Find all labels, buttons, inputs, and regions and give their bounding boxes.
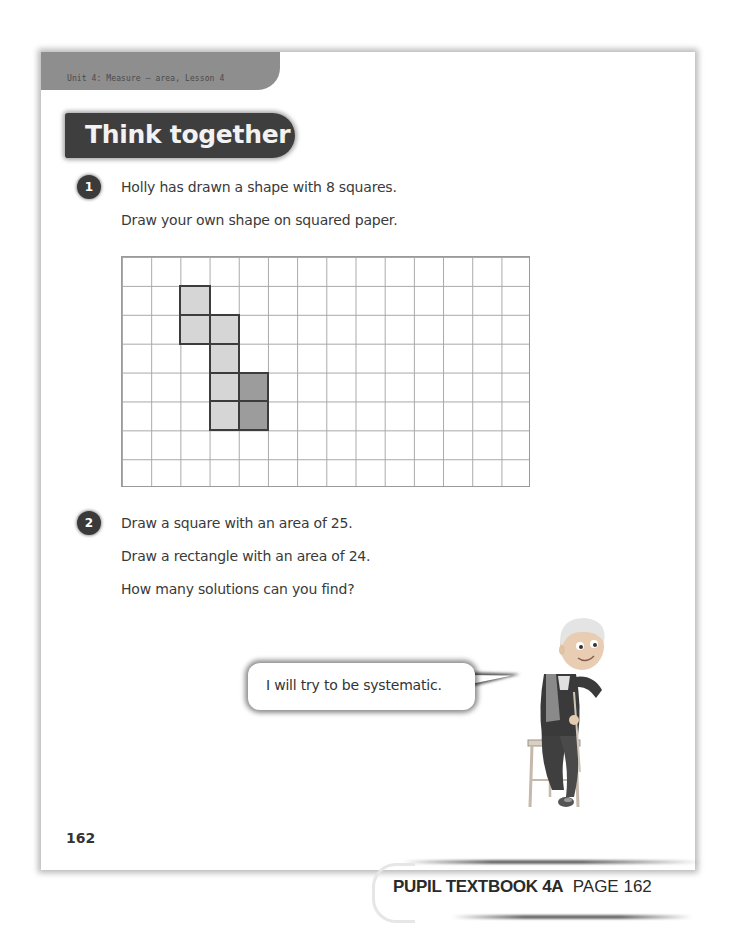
squared-paper-grid [121, 256, 530, 487]
shaded-grid-cell [179, 314, 210, 345]
question-1-number-badge: 1 [77, 175, 101, 199]
question-2-line-3: How many solutions can you find? [121, 581, 354, 597]
question-2-number: 2 [85, 516, 93, 530]
unit-label: Unit 4: Measure – area, Lesson 4 [67, 74, 224, 83]
boy-character-icon [510, 612, 630, 812]
footer-label: PUPIL TEXTBOOK 4A PAGE 162 [393, 877, 652, 897]
footer-divider-bottom [452, 915, 692, 919]
footer-book-label: PUPIL TEXTBOOK 4A [393, 877, 563, 896]
speech-bubble: I will try to be systematic. [248, 663, 475, 710]
footer-page-label: PAGE 162 [573, 877, 652, 896]
footer-page-reference: PUPIL TEXTBOOK 4A PAGE 162 [372, 860, 698, 920]
question-1-line-2: Draw your own shape on squared paper. [121, 212, 397, 228]
page-number: 162 [66, 830, 95, 846]
shaded-grid-cell [209, 314, 240, 345]
shaded-grid-cell [209, 372, 240, 403]
question-2-line-2: Draw a rectangle with an area of 24. [121, 548, 370, 564]
section-title: Think together [85, 120, 290, 149]
textbook-page: Unit 4: Measure – area, Lesson 4 Think t… [41, 52, 695, 870]
question-2-line-1: Draw a square with an area of 25. [121, 515, 353, 531]
question-2-number-badge: 2 [77, 511, 101, 535]
shaded-grid-cell [209, 343, 240, 374]
footer-divider-top [402, 860, 702, 864]
question-1-line-1: Holly has drawn a shape with 8 squares. [121, 179, 397, 195]
shaded-grid-cell [209, 400, 240, 431]
shaded-grid-cell [238, 400, 269, 431]
speech-bubble-text: I will try to be systematic. [266, 677, 442, 693]
shaded-grid-cell [179, 285, 210, 316]
section-title-banner: Think together [65, 113, 295, 158]
question-1-number: 1 [85, 180, 93, 194]
shaded-grid-cell [238, 372, 269, 403]
unit-header-band: Unit 4: Measure – area, Lesson 4 [41, 52, 280, 90]
